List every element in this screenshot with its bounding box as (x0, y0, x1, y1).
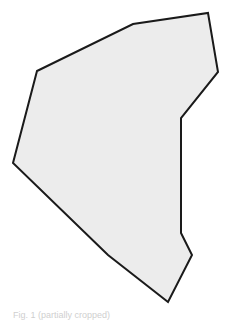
figure-caption: Fig. 1 (partially cropped) (13, 310, 110, 320)
polygon-shape (13, 13, 218, 302)
